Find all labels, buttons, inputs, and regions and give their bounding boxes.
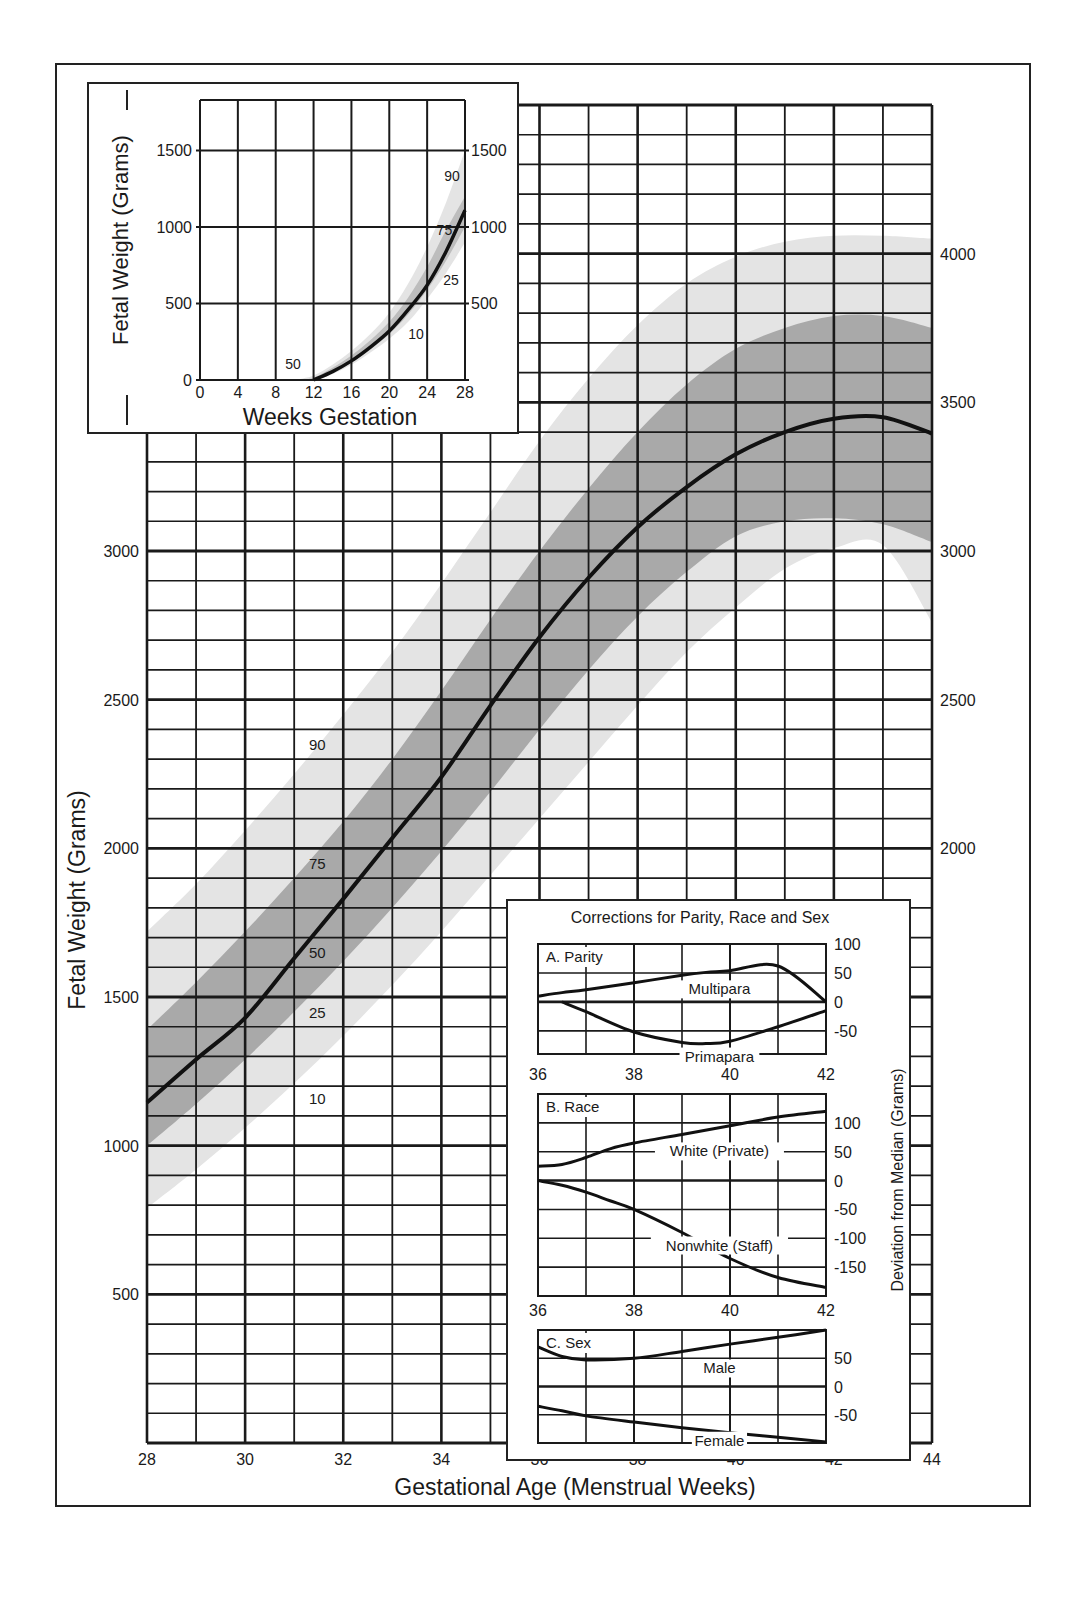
y-tick-label-left: 1500 — [103, 989, 139, 1006]
inset-x-tick-label: 24 — [418, 384, 436, 401]
inset-y-tick-label-left: 0 — [183, 372, 192, 389]
y-tick-label-right: 3000 — [940, 543, 976, 560]
panel-y-tick-label: -150 — [834, 1259, 866, 1276]
series-label: Multipara — [689, 980, 751, 997]
x-tick-label: 32 — [334, 1451, 352, 1468]
panel-y-tick-label: 50 — [834, 1350, 852, 1367]
y-tick-label-left: 1000 — [103, 1138, 139, 1155]
panel-x-tick-label: 38 — [625, 1302, 643, 1319]
inset-y-tick-label-right: 1500 — [471, 142, 507, 159]
y-tick-label-right: 2500 — [940, 692, 976, 709]
chart-canvas: 9075502510 283032343638404244 5001000150… — [0, 0, 1085, 1620]
panel-y-tick-label: 0 — [834, 1173, 843, 1190]
panel-y-tick-label: -50 — [834, 1023, 857, 1040]
panel-x-tick-label: 40 — [721, 1302, 739, 1319]
inset-x-axis-label: Weeks Gestation — [243, 404, 418, 430]
inset-y-tick-label-right: 500 — [471, 295, 498, 312]
panel-y-tick-label: 0 — [834, 1379, 843, 1396]
x-tick-label: 34 — [432, 1451, 450, 1468]
corrections-inset: Corrections for Parity, Race and Sex 100… — [507, 900, 910, 1460]
series-label: Nonwhite (Staff) — [666, 1237, 773, 1254]
panel-x-tick-label: 42 — [817, 1302, 835, 1319]
series-label: Female — [694, 1432, 744, 1449]
inset-x-tick-label: 16 — [343, 384, 361, 401]
inset-percentile-label-50: 50 — [285, 356, 301, 372]
early-gestation-inset: 9075251050 0481216202428 050010001500500… — [88, 83, 518, 433]
x-tick-label: 44 — [923, 1451, 941, 1468]
inset-percentile-label-90: 90 — [444, 168, 460, 184]
panel-y-tick-label: 50 — [834, 1144, 852, 1161]
percentile-label-10: 10 — [309, 1090, 326, 1107]
panel-y-tick-label: 50 — [834, 965, 852, 982]
inset-y-tick-label-left: 1000 — [156, 219, 192, 236]
fetal-growth-chart-figure: 9075502510 283032343638404244 5001000150… — [0, 0, 1085, 1620]
y-tick-label-right: 2000 — [940, 840, 976, 857]
panel-y-tick-label: 100 — [834, 936, 861, 953]
panel-title: B. Race — [546, 1098, 599, 1115]
panel-y-tick-label: -50 — [834, 1407, 857, 1424]
panel-x-tick-label: 40 — [721, 1066, 739, 1083]
corrections-y-axis-label: Deviation from Median (Grams) — [889, 1068, 906, 1291]
inset-percentile-label-10: 10 — [408, 326, 424, 342]
y-tick-label-left: 2500 — [103, 692, 139, 709]
percentile-label-25: 25 — [309, 1004, 326, 1021]
inset-x-tick-label: 8 — [271, 384, 280, 401]
panel-x-tick-label: 36 — [529, 1302, 547, 1319]
inset-x-tick-label: 20 — [380, 384, 398, 401]
percentile-label-50: 50 — [309, 944, 326, 961]
panel-title: C. Sex — [546, 1334, 592, 1351]
inset-y-tick-label-left: 500 — [165, 295, 192, 312]
y-tick-label-left: 500 — [112, 1286, 139, 1303]
y-tick-label-left: 3000 — [103, 543, 139, 560]
inset-y-tick-label-right: 1000 — [471, 219, 507, 236]
inset-percentile-label-25: 25 — [443, 272, 459, 288]
inset-x-tick-label: 4 — [233, 384, 242, 401]
panel-x-tick-label: 42 — [817, 1066, 835, 1083]
series-label: Male — [703, 1359, 736, 1376]
x-axis-label: Gestational Age (Menstrual Weeks) — [394, 1474, 755, 1500]
series-label: Primapara — [685, 1048, 755, 1065]
inset-percentile-label-75: 75 — [437, 222, 453, 238]
y-tick-label-right: 4000 — [940, 246, 976, 263]
y-tick-label-left: 2000 — [103, 840, 139, 857]
correction-panel-2: 100500-50-100-150B. RaceWhite (Private)N… — [529, 1094, 866, 1319]
inset-x-tick-label: 28 — [456, 384, 474, 401]
corrections-title: Corrections for Parity, Race and Sex — [571, 909, 829, 926]
y-tick-label-right: 3500 — [940, 394, 976, 411]
panel-y-tick-label: -50 — [834, 1201, 857, 1218]
percentile-label-75: 75 — [309, 855, 326, 872]
x-tick-label: 28 — [138, 1451, 156, 1468]
panel-title: A. Parity — [546, 948, 603, 965]
percentile-label-90: 90 — [309, 736, 326, 753]
y-axis-label: Fetal Weight (Grams) — [64, 790, 90, 1009]
panel-x-tick-label: 38 — [625, 1066, 643, 1083]
panel-y-tick-label: -100 — [834, 1230, 866, 1247]
panel-x-tick-label: 36 — [529, 1066, 547, 1083]
correction-panel-3: 500-50C. SexMaleFemale — [538, 1330, 857, 1450]
inset-y-axis-label: Fetal Weight (Grams) — [108, 135, 133, 345]
inset-y-tick-label-left: 1500 — [156, 142, 192, 159]
panel-y-tick-label: 0 — [834, 994, 843, 1011]
inset-x-tick-label: 12 — [305, 384, 323, 401]
panel-y-tick-label: 100 — [834, 1115, 861, 1132]
correction-panels: 100500-50A. ParityMultiparaPrimapara3638… — [529, 936, 866, 1450]
series-label: White (Private) — [670, 1142, 769, 1159]
x-tick-label: 30 — [236, 1451, 254, 1468]
inset-x-tick-label: 0 — [196, 384, 205, 401]
